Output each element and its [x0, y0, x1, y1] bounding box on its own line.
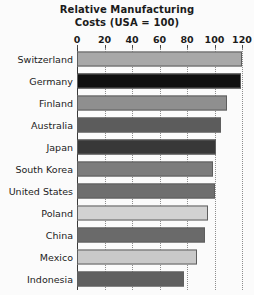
- category-label-finland: Finland: [39, 98, 73, 109]
- chart-title-line-2: Costs (USA = 100): [0, 17, 254, 30]
- bar-mexico: [77, 250, 197, 265]
- bar-poland: [77, 206, 208, 221]
- bar-row: South Korea: [77, 158, 242, 180]
- bar-australia: [77, 118, 221, 133]
- bar-indonesia: [77, 272, 184, 287]
- bar-united-states: [77, 184, 215, 199]
- x-tick-label-120: 120: [232, 34, 252, 45]
- tick-mark-120: [242, 45, 243, 48]
- category-label-indonesia: Indonesia: [27, 274, 73, 285]
- manufacturing-costs-bar-chart: Relative Manufacturing Costs (USA = 100)…: [0, 0, 254, 295]
- x-tick-label-80: 80: [180, 34, 193, 45]
- chart-title: Relative Manufacturing Costs (USA = 100): [0, 4, 254, 29]
- chart-title-line-1: Relative Manufacturing: [0, 4, 254, 17]
- category-label-united-states: United States: [9, 186, 73, 197]
- category-label-china: China: [46, 230, 73, 241]
- category-label-poland: Poland: [41, 208, 73, 219]
- bar-finland: [77, 96, 227, 111]
- bar-row: Poland: [77, 202, 242, 224]
- x-tick-label-100: 100: [205, 34, 225, 45]
- bar-south-korea: [77, 162, 213, 177]
- x-tick-label-20: 20: [98, 34, 111, 45]
- bar-row: Finland: [77, 92, 242, 114]
- bar-germany: [77, 74, 241, 89]
- plot-area: SwitzerlandGermanyFinlandAustraliaJapanS…: [77, 48, 242, 290]
- x-tick-label-0: 0: [74, 34, 81, 45]
- bar-row: China: [77, 224, 242, 246]
- category-label-germany: Germany: [29, 76, 73, 87]
- x-axis-tick-labels: 020406080100120: [0, 34, 254, 47]
- category-label-japan: Japan: [47, 142, 74, 153]
- x-tick-label-60: 60: [153, 34, 166, 45]
- category-label-mexico: Mexico: [40, 252, 73, 263]
- bar-row: Mexico: [77, 246, 242, 268]
- bar-row: Australia: [77, 114, 242, 136]
- gridline-120: [242, 48, 244, 290]
- bar-row: Switzerland: [77, 48, 242, 70]
- bar-switzerland: [77, 52, 242, 67]
- bar-china: [77, 228, 205, 243]
- bar-japan: [77, 140, 216, 155]
- category-label-switzerland: Switzerland: [18, 54, 73, 65]
- bar-row: Germany: [77, 70, 242, 92]
- bar-row: Japan: [77, 136, 242, 158]
- category-label-south-korea: South Korea: [15, 164, 73, 175]
- category-label-australia: Australia: [31, 120, 73, 131]
- bar-row: Indonesia: [77, 268, 242, 290]
- bar-row: United States: [77, 180, 242, 202]
- x-tick-label-40: 40: [125, 34, 138, 45]
